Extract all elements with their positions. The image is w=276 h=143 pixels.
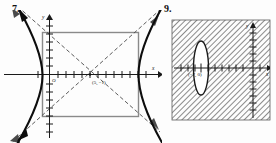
hyperbola-svg: x y O (5, −1) [0, 10, 162, 143]
origin-label: O [52, 78, 56, 83]
ellipse-region-svg: (−7, 0) x y [170, 18, 276, 130]
curve-arrow-lower-left [17, 128, 28, 141]
y-axis-label: y [245, 23, 249, 29]
asymptote-negative-slope [8, 10, 160, 132]
hyperbola-panel: x y O (5, −1) [0, 10, 162, 143]
shaded-region [172, 20, 270, 120]
x-axis-arrow [158, 71, 162, 78]
figure-number-9: 9. [164, 3, 172, 14]
hyperbola-center-point [89, 73, 91, 75]
hyperbola-left-branch [16, 10, 43, 143]
hyperbola-center-label: (5, −1) [92, 80, 106, 86]
y-axis-label: y [41, 14, 45, 20]
x-axis-label: x [151, 65, 155, 71]
x-axis-label: x [265, 71, 269, 77]
figure-page: 7. [0, 0, 276, 143]
ellipse-region-panel: (−7, 0) x y [170, 18, 276, 130]
y-axis-arrow [46, 14, 53, 20]
asymptote-arrow-upper-left [12, 10, 20, 18]
